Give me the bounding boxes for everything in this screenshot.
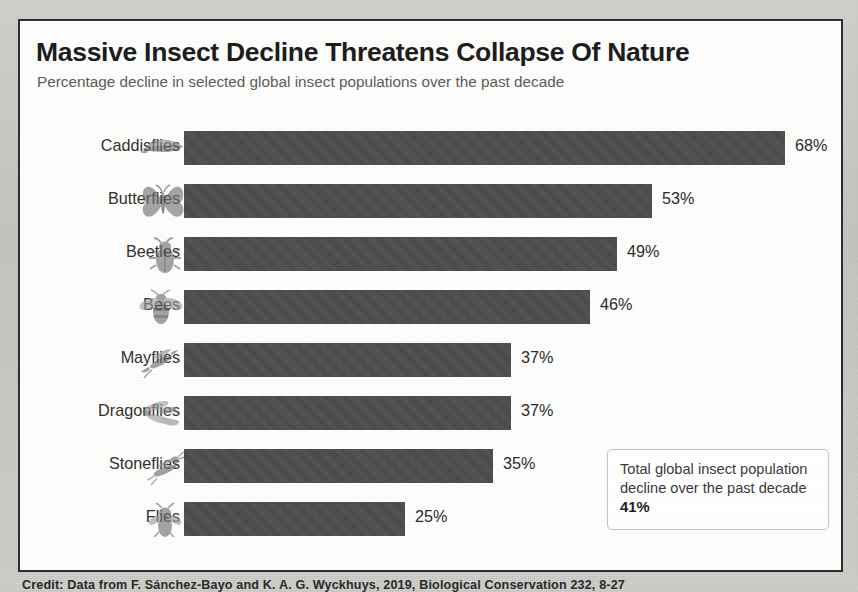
bar-row: Beetles 49% <box>20 231 843 284</box>
bar-row: Butterflies 53% <box>20 178 843 231</box>
bar-value-label: 37% <box>521 401 553 420</box>
bar-row: Mayflies 37% <box>20 337 843 390</box>
bar-row: Bees 46% <box>20 284 843 337</box>
bar-value-label: 37% <box>521 348 553 367</box>
chart-title: Massive Insect Decline Threatens Collaps… <box>36 37 689 68</box>
beetle-icon <box>148 234 182 276</box>
bar-value-label: 68% <box>795 136 827 155</box>
credit-line: Credit: Data from F. Sánchez-Bayo and K.… <box>22 578 625 592</box>
bar-value-label: 25% <box>415 507 447 526</box>
figure-card: Massive Insect Decline Threatens Collaps… <box>18 19 843 572</box>
chart-subtitle: Percentage decline in selected global in… <box>37 73 564 91</box>
bar <box>184 237 617 271</box>
dragonfly-icon <box>138 393 184 435</box>
total-decline-callout: Total global insect population decline o… <box>607 449 829 530</box>
bar-row: Dragonflies 37% <box>20 390 843 443</box>
bar-value-label: 35% <box>503 454 535 473</box>
callout-value: 41% <box>620 498 816 517</box>
bar-row: Caddisflies 68% <box>20 125 843 178</box>
bee-icon <box>138 287 184 329</box>
butterfly-icon <box>140 181 186 223</box>
bar <box>184 184 652 218</box>
bar <box>184 502 405 536</box>
bar-chart-plot-area: Caddisflies 68% Butterflies <box>20 125 843 565</box>
bar <box>184 343 511 377</box>
bar-value-label: 49% <box>627 242 659 261</box>
stonefly-icon <box>142 446 188 488</box>
bar <box>184 131 785 165</box>
bar-value-label: 46% <box>600 295 632 314</box>
caddisfly-icon <box>138 128 184 170</box>
bar <box>184 449 493 483</box>
mayfly-icon <box>140 340 186 382</box>
callout-line-2: decline over the past decade <box>620 479 816 498</box>
bar-value-label: 53% <box>662 189 694 208</box>
fly-icon <box>148 499 182 541</box>
callout-line-1: Total global insect population <box>620 460 816 479</box>
bar <box>184 396 511 430</box>
bar <box>184 290 590 324</box>
